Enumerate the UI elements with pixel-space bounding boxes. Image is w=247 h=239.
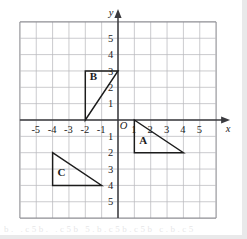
y-axis-name: y <box>108 7 114 18</box>
coordinate-plane: -5-4-3-2-1123455432112345O ABC xy <box>0 0 247 239</box>
origin-label: O <box>120 120 128 131</box>
figure-root: -5-4-3-2-1123455432112345O ABC xy b. .c5… <box>0 0 247 239</box>
x-tick-label: -5 <box>31 124 40 135</box>
y-tick-label: 2 <box>108 82 113 93</box>
x-tick-label: 4 <box>180 124 186 135</box>
x-axis-name: x <box>225 123 231 134</box>
x-tick-label: -2 <box>80 124 89 135</box>
triangle-label-a: A <box>139 134 147 146</box>
y-tick-label: 4 <box>108 49 114 60</box>
y-tick-label: 2 <box>108 147 113 158</box>
triangle-label-b: B <box>90 70 98 82</box>
x-tick-label: 3 <box>164 124 169 135</box>
axes <box>20 9 230 218</box>
x-tick-label: 5 <box>197 124 202 135</box>
y-tick-label: 4 <box>108 180 114 191</box>
page-edge-right <box>242 0 247 239</box>
y-tick-label: 3 <box>108 164 113 175</box>
y-tick-label: 1 <box>108 98 113 109</box>
x-tick-label: -3 <box>64 124 73 135</box>
x-tick-label: -1 <box>97 124 106 135</box>
y-axis-arrowhead <box>114 9 121 18</box>
axis-names: xy <box>108 7 231 134</box>
x-tick-label: -4 <box>48 124 57 135</box>
page-edge-bottom <box>0 235 247 239</box>
y-tick-label: 1 <box>108 131 113 142</box>
y-tick-label: 5 <box>108 196 113 207</box>
triangle-label-c: C <box>58 166 66 178</box>
y-tick-label: 5 <box>108 33 113 44</box>
